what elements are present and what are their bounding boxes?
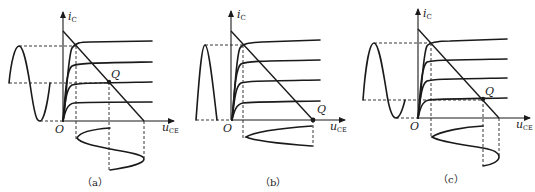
output-waveform bbox=[246, 126, 312, 146]
origin-label: O bbox=[55, 123, 64, 136]
load-line bbox=[63, 31, 144, 121]
panel-caption: （a） bbox=[82, 177, 108, 188]
origin-label: O bbox=[223, 122, 232, 135]
q-point-label: Q bbox=[111, 68, 120, 81]
output-waveform bbox=[432, 126, 499, 166]
input-waveform bbox=[9, 46, 50, 121]
transistor-operating-point-figure: iC uCE O Q （a） iC uCE O bbox=[0, 0, 535, 192]
y-axis-label: iC bbox=[237, 8, 246, 22]
x-axis-label: uCE bbox=[330, 120, 347, 134]
panel-b: iC uCE O Q （b） bbox=[196, 8, 347, 188]
panel-c: iC uCE O Q （c） bbox=[363, 7, 533, 185]
q-point-label: Q bbox=[485, 85, 494, 98]
panel-caption: （c） bbox=[438, 174, 464, 185]
input-waveform bbox=[363, 43, 405, 118]
y-axis-label: iC bbox=[68, 10, 77, 24]
q-point-label: Q bbox=[317, 103, 326, 116]
input-waveform bbox=[196, 45, 217, 120]
load-line bbox=[418, 29, 499, 118]
y-axis-label: iC bbox=[423, 7, 432, 21]
panel-a: iC uCE O Q （a） bbox=[9, 10, 179, 188]
origin-label: O bbox=[410, 120, 419, 133]
panel-caption: （b） bbox=[260, 177, 286, 188]
x-axis-label: uCE bbox=[516, 118, 533, 132]
output-waveform bbox=[77, 128, 144, 170]
x-axis-label: uCE bbox=[162, 121, 179, 135]
